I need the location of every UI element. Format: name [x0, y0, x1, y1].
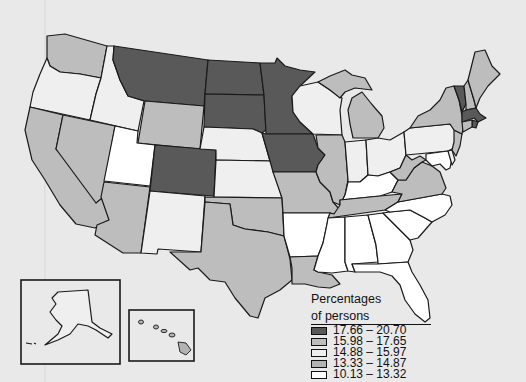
state-colorado — [150, 145, 216, 196]
legend-label: 10.13 – 13.32 — [333, 369, 406, 380]
state-connecticut — [462, 120, 472, 132]
legend-swatch-light — [311, 360, 327, 368]
state-massachusetts — [462, 108, 486, 122]
state-iowa — [262, 133, 325, 172]
legend: Percentages of persons 17.66 – 20.70 15.… — [311, 293, 451, 380]
state-north-dakota — [205, 60, 264, 95]
legend-swatch-medium — [311, 349, 327, 357]
state-wyoming — [138, 101, 204, 149]
legend-swatch-lightest — [311, 371, 327, 379]
legend-title-line-1: Percentages — [311, 293, 451, 306]
legend-swatch-darkest — [311, 327, 327, 335]
legend-item: 10.13 – 13.32 — [311, 369, 451, 380]
state-new-mexico — [141, 191, 205, 254]
legend-swatch-dark — [311, 338, 327, 346]
state-michigan-lower — [348, 92, 384, 138]
state-indiana — [345, 140, 368, 182]
state-rhode-island — [472, 120, 478, 128]
